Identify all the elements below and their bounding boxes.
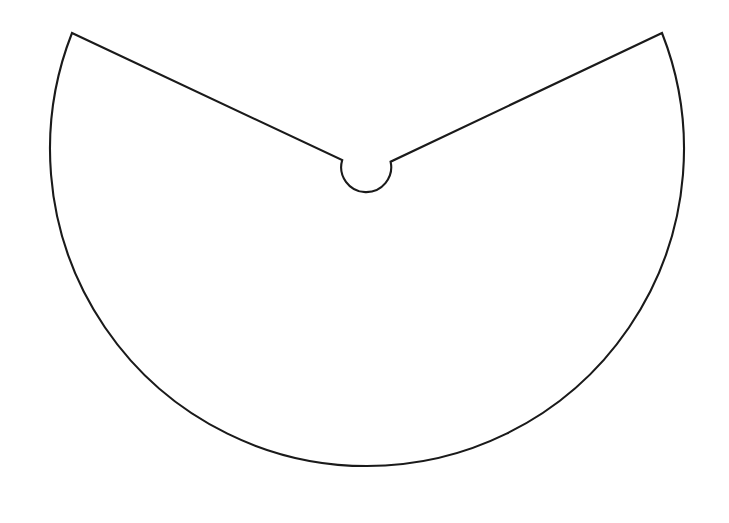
drawing-canvas [0, 0, 729, 523]
sector-figure [0, 0, 729, 523]
canvas-background [0, 0, 729, 523]
